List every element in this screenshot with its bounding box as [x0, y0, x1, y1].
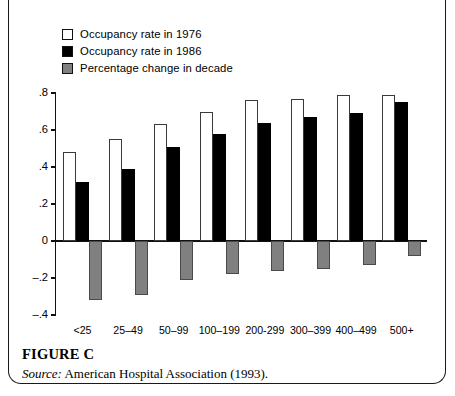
figure-title: FIGURE C: [22, 346, 422, 363]
y-axis-tick-label: .2: [39, 198, 48, 209]
bar-1986: [304, 117, 317, 241]
source-text: American Hospital Association (1993).: [62, 366, 268, 381]
bar-change: [135, 241, 148, 295]
bar-1976: [63, 152, 76, 241]
bar-1986: [167, 147, 180, 241]
figure-sheet: Occupancy rate in 1976 Occupancy rate in…: [0, 0, 455, 396]
y-axis-tick-label: 0: [42, 235, 48, 246]
bar-1976: [154, 124, 167, 241]
y-axis-tick: [51, 277, 56, 278]
legend-label-1986: Occupancy rate in 1986: [80, 46, 202, 57]
y-axis-tick-label: .4: [39, 161, 48, 172]
x-axis-category-label: 200-299: [245, 325, 284, 336]
y-axis-tick: [51, 203, 56, 204]
bar-change: [317, 241, 330, 269]
bar-1976: [245, 100, 258, 241]
figure-source: Source: American Hospital Association (1…: [22, 366, 422, 382]
y-axis-tick-label: –.4: [32, 309, 48, 320]
bar-1986: [76, 182, 89, 241]
bar-1976: [382, 95, 395, 241]
bar-1976: [291, 99, 304, 241]
bar-change: [408, 241, 421, 256]
legend-item-1986: Occupancy rate in 1986: [62, 43, 233, 60]
x-axis-category-label: 500+: [390, 325, 414, 336]
y-axis-tick: [51, 166, 56, 167]
bar-1986: [395, 102, 408, 241]
y-axis-tick-label: .6: [39, 124, 48, 135]
bar-1976: [109, 139, 122, 241]
bar-chart-plot: .8.6.4.20–.2–.4 <2525–4950–99100–199200-…: [55, 88, 427, 320]
legend-item-1976: Occupancy rate in 1976: [62, 26, 233, 43]
bar-1986: [213, 134, 226, 241]
x-axis-category-label: 25–49: [113, 325, 142, 336]
bar-change: [363, 241, 376, 265]
y-axis-tick: [51, 129, 56, 130]
y-axis-tick-label: .8: [39, 87, 48, 98]
legend-label-change: Percentage change in decade: [80, 63, 233, 74]
white-square-icon: [62, 29, 73, 40]
figure-caption: FIGURE C Source: American Hospital Assoc…: [22, 346, 422, 382]
y-axis-tick-label: –.2: [32, 272, 48, 283]
x-axis-category-label: 50–99: [159, 325, 188, 336]
y-axis-tick: [51, 92, 56, 93]
legend-label-1976: Occupancy rate in 1976: [80, 29, 202, 40]
bar-1976: [200, 112, 213, 242]
y-axis-tick: [51, 314, 56, 315]
black-square-icon: [62, 46, 73, 57]
x-axis-category-label: 400–499: [335, 325, 376, 336]
chart-legend: Occupancy rate in 1976 Occupancy rate in…: [62, 26, 233, 77]
bar-change: [89, 241, 102, 300]
x-axis-category-label: 100–199: [199, 325, 240, 336]
gray-square-icon: [62, 63, 73, 74]
bar-change: [271, 241, 284, 271]
bar-1986: [350, 113, 363, 241]
legend-item-change: Percentage change in decade: [62, 60, 233, 77]
x-axis-category-label: <25: [74, 325, 92, 336]
bar-change: [180, 241, 193, 280]
bar-1986: [122, 169, 135, 241]
x-axis-category-label: 300–399: [290, 325, 331, 336]
bar-1976: [337, 95, 350, 241]
source-keyword: Source:: [22, 366, 62, 381]
bar-1986: [258, 123, 271, 241]
bar-change: [226, 241, 239, 274]
